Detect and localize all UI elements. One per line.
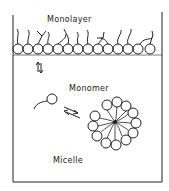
equilibrium-arrow-diagonal xyxy=(64,107,80,118)
micelle xyxy=(88,97,141,150)
monomer-label: Monomer xyxy=(69,84,109,93)
monolayer-tails xyxy=(17,29,153,44)
micelle-label: Micelle xyxy=(53,156,83,165)
monolayer-heads xyxy=(13,44,155,54)
monolayer-label: Monolayer xyxy=(47,15,92,24)
micelle-equilibrium-diagram xyxy=(0,0,169,191)
equilibrium-arrow-vertical xyxy=(36,62,43,73)
monomer xyxy=(34,94,57,109)
